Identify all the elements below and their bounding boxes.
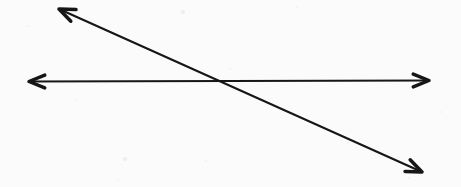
intersecting-lines-drawing xyxy=(0,0,461,187)
geometry-figure-canvas xyxy=(0,0,461,187)
horizontal-line xyxy=(29,81,429,82)
